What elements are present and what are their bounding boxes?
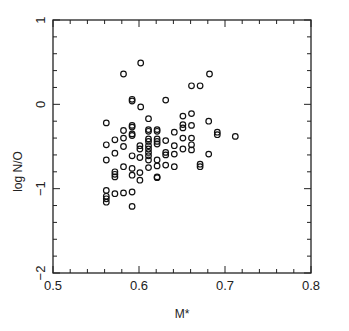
data-point xyxy=(121,135,127,141)
data-point xyxy=(121,71,127,77)
data-point xyxy=(104,188,110,194)
data-point xyxy=(129,189,135,195)
data-point xyxy=(137,177,143,183)
data-point xyxy=(207,71,213,77)
data-point xyxy=(146,116,152,122)
data-point xyxy=(138,104,144,110)
data-point xyxy=(154,163,160,169)
data-point xyxy=(129,172,135,178)
data-point xyxy=(104,142,110,148)
data-point xyxy=(163,138,169,144)
data-point xyxy=(180,135,186,141)
y-tick-label: 0 xyxy=(33,101,48,108)
scatter-chart: 0.50.60.70.8 10−1−2 M* log N/O xyxy=(0,0,349,331)
data-point xyxy=(121,128,127,134)
data-point xyxy=(129,153,135,159)
data-point xyxy=(172,143,178,149)
x-axis-label: M* xyxy=(175,307,190,321)
data-point xyxy=(163,162,169,168)
data-point xyxy=(206,151,212,157)
data-point xyxy=(104,120,110,126)
x-tick-label: 0.8 xyxy=(302,278,320,293)
data-point xyxy=(112,191,118,197)
x-tick-label: 0.7 xyxy=(216,278,234,293)
data-point xyxy=(233,134,239,140)
data-point xyxy=(172,129,178,135)
data-point xyxy=(180,146,186,152)
data-point xyxy=(146,165,152,171)
data-point xyxy=(112,150,118,156)
data-point xyxy=(121,144,127,150)
data-point xyxy=(197,83,203,89)
x-tick-labels: 0.50.60.70.8 xyxy=(44,278,320,293)
data-point xyxy=(180,113,186,119)
y-tick-label: −1 xyxy=(33,181,48,196)
data-point xyxy=(206,118,212,124)
data-point xyxy=(129,204,135,210)
y-tick-label: −2 xyxy=(33,266,48,281)
data-point xyxy=(137,155,143,161)
data-point xyxy=(121,164,127,170)
data-point xyxy=(189,83,195,89)
data-point xyxy=(189,123,195,129)
data-point xyxy=(163,97,169,103)
data-point xyxy=(189,111,195,117)
data-point xyxy=(104,157,110,163)
data-point xyxy=(172,151,178,157)
x-tick-label: 0.6 xyxy=(130,278,148,293)
y-axis-label: log N/O xyxy=(11,151,25,192)
data-point xyxy=(172,164,178,170)
y-tick-label: 1 xyxy=(33,16,48,23)
data-point xyxy=(138,60,144,66)
y-tick-labels: 10−1−2 xyxy=(33,16,48,280)
data-point xyxy=(129,166,135,172)
data-points xyxy=(104,60,239,209)
data-point xyxy=(154,157,160,163)
data-point xyxy=(121,190,127,196)
data-point xyxy=(189,135,195,141)
data-point xyxy=(137,170,143,176)
data-point xyxy=(112,137,118,143)
